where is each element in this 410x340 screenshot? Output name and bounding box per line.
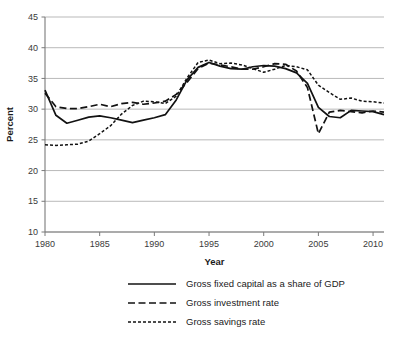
series-group <box>45 60 384 145</box>
x-tick-labels-group: 1980198519901995200020052010 <box>35 239 383 249</box>
x-tick-label-2005: 2005 <box>308 239 328 249</box>
y-axis-title: Percent <box>4 106 15 142</box>
series-line-1 <box>45 63 384 134</box>
legend-label-2: Gross savings rate <box>186 316 265 327</box>
y-tick-label-10: 10 <box>28 227 38 237</box>
legend-label-1: Gross investment rate <box>186 297 279 308</box>
axes-group <box>42 17 385 236</box>
y-tick-label-25: 25 <box>28 135 38 145</box>
legend-item-2: Gross savings rate <box>128 316 265 327</box>
legend-item-0: Gross fixed capital as a share of GDP <box>128 278 345 289</box>
y-tick-label-15: 15 <box>28 196 38 206</box>
x-axis-title: Year <box>204 256 224 267</box>
x-tick-label-1990: 1990 <box>144 239 164 249</box>
chart-container: 1015202530354045 19801985199019952000200… <box>0 0 410 340</box>
y-tick-label-35: 35 <box>28 74 38 84</box>
y-tick-label-20: 20 <box>28 166 38 176</box>
x-tick-label-1980: 1980 <box>35 239 55 249</box>
x-tick-label-1995: 1995 <box>199 239 219 249</box>
line-chart: 1015202530354045 19801985199019952000200… <box>0 0 410 340</box>
y-tick-labels-group: 1015202530354045 <box>28 12 38 237</box>
series-line-0 <box>45 62 384 123</box>
y-tick-label-40: 40 <box>28 43 38 53</box>
gridlines-group <box>45 17 384 232</box>
x-tick-label-1985: 1985 <box>90 239 110 249</box>
legend-label-0: Gross fixed capital as a share of GDP <box>186 278 345 289</box>
x-tick-label-2000: 2000 <box>254 239 274 249</box>
x-tick-label-2010: 2010 <box>363 239 383 249</box>
legend-item-1: Gross investment rate <box>128 297 279 308</box>
legend: Gross fixed capital as a share of GDPGro… <box>128 278 345 327</box>
y-tick-label-45: 45 <box>28 12 38 22</box>
series-line-2 <box>45 60 384 145</box>
y-tick-label-30: 30 <box>28 104 38 114</box>
